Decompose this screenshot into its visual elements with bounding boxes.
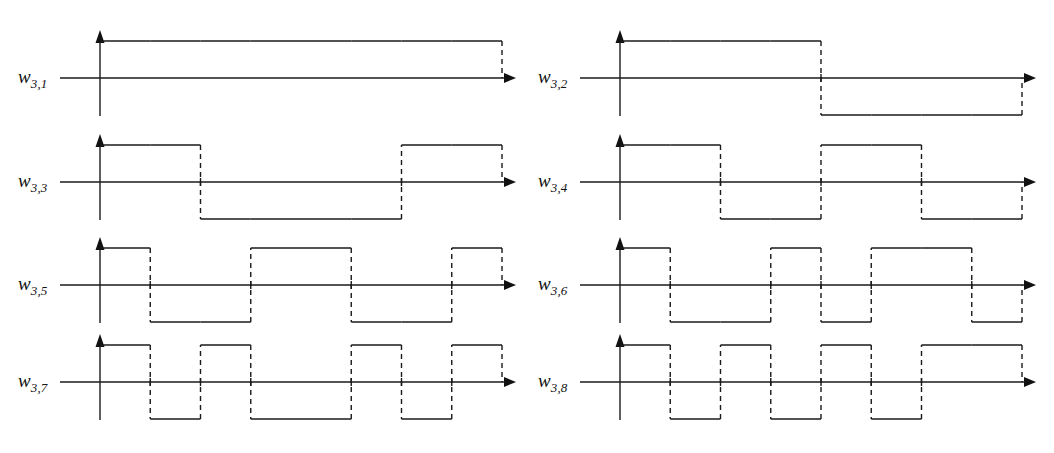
waveform-label: w3,7 xyxy=(18,371,48,394)
horizontal-axis-arrow xyxy=(1024,280,1036,290)
waveform-label-subscript: 3,1 xyxy=(31,76,48,91)
waveform-label: w3,4 xyxy=(538,171,568,194)
walsh-function-figure: w3,1w3,2w3,3w3,4w3,5w3,6w3,7w3,8 xyxy=(0,0,1054,453)
horizontal-axis-arrow xyxy=(504,177,516,187)
horizontal-axis-arrow xyxy=(1024,177,1036,187)
waveform-label-base: w xyxy=(538,273,551,294)
horizontal-axis-arrow xyxy=(504,73,516,83)
vertical-axis-arrow xyxy=(616,237,625,250)
waveform-canvas xyxy=(0,0,1054,453)
waveform-label-base: w xyxy=(18,273,31,294)
waveform-label: w3,3 xyxy=(18,171,48,194)
vertical-axis-arrow xyxy=(616,30,625,43)
waveform-canvas xyxy=(0,0,1054,453)
vertical-axis-arrow xyxy=(96,30,105,43)
waveform-label-subscript: 3,7 xyxy=(31,380,48,395)
waveform-label: w3,1 xyxy=(18,67,48,90)
vertical-axis-arrow xyxy=(96,134,105,147)
waveform-label-base: w xyxy=(538,170,551,191)
waveform-canvas xyxy=(0,0,1054,453)
waveform-label-base: w xyxy=(18,370,31,391)
waveform-label: w3,8 xyxy=(538,371,568,394)
horizontal-axis-arrow xyxy=(1024,73,1036,83)
horizontal-axis-arrow xyxy=(504,280,516,290)
waveform-label-subscript: 3,2 xyxy=(551,76,568,91)
vertical-axis-arrow xyxy=(616,334,625,347)
waveform-canvas xyxy=(0,0,1054,453)
waveform-label-base: w xyxy=(538,370,551,391)
waveform-label-base: w xyxy=(18,170,31,191)
vertical-axis-arrow xyxy=(616,134,625,147)
waveform-canvas xyxy=(0,0,1054,453)
waveform-label-subscript: 3,6 xyxy=(551,283,568,298)
waveform-label-subscript: 3,4 xyxy=(551,180,568,195)
horizontal-axis-arrow xyxy=(1024,377,1036,387)
vertical-axis-arrow xyxy=(96,237,105,250)
waveform-label: w3,2 xyxy=(538,67,568,90)
waveform-label: w3,5 xyxy=(18,274,48,297)
waveform-label-subscript: 3,8 xyxy=(551,380,568,395)
waveform-canvas xyxy=(0,0,1054,453)
horizontal-axis-arrow xyxy=(504,377,516,387)
waveform-label-subscript: 3,3 xyxy=(31,180,48,195)
vertical-axis-arrow xyxy=(96,334,105,347)
waveform-label-base: w xyxy=(18,66,31,87)
waveform-label: w3,6 xyxy=(538,274,568,297)
waveform-label-subscript: 3,5 xyxy=(31,283,48,298)
waveform-canvas xyxy=(0,0,1054,453)
waveform-label-base: w xyxy=(538,66,551,87)
waveform-canvas xyxy=(0,0,1054,453)
